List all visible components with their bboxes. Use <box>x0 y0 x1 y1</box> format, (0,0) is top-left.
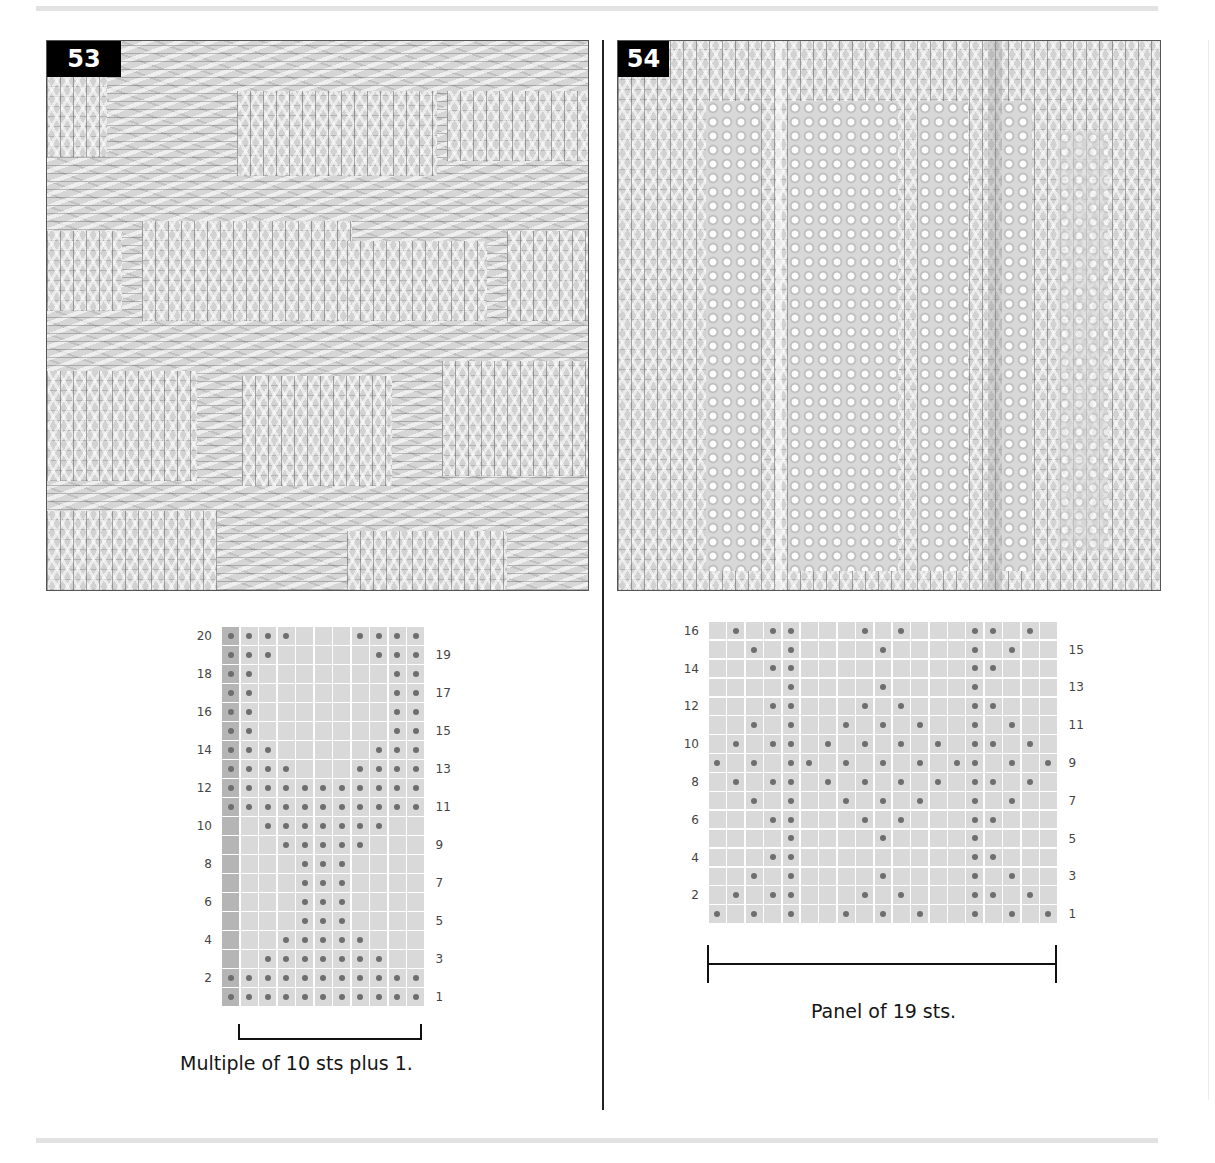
chart-cell-purl <box>370 760 387 778</box>
chart-cell-purl <box>333 969 350 987</box>
chart-cell-purl <box>875 754 892 771</box>
chart-cell-purl <box>985 811 1002 828</box>
row-number-label: 20 <box>188 630 212 642</box>
chart-cell-knit <box>1040 849 1057 866</box>
chart-cell-knit <box>333 722 350 740</box>
chart-cell-knit <box>930 679 947 696</box>
chart-cell-purl <box>966 849 983 866</box>
chart-cell-knit <box>930 886 947 903</box>
swatch-photo-54: 54 <box>617 40 1161 591</box>
seed-stitch-column <box>788 101 898 571</box>
chart-cell-purl <box>966 716 983 733</box>
chart-cell-purl <box>370 988 387 1006</box>
chart-cell-purl <box>407 798 424 816</box>
chart-cell-knit <box>241 874 258 892</box>
chart-cell-purl <box>333 779 350 797</box>
chart-cell-knit <box>856 792 873 809</box>
chart-cell-knit <box>709 698 726 715</box>
chart-caption-53: Multiple of 10 sts plus 1. <box>180 1052 413 1074</box>
chart-cell-purl <box>370 646 387 664</box>
chart-cell-knit <box>222 836 239 854</box>
chart-cell-purl <box>241 703 258 721</box>
chart-cell-knit <box>1040 773 1057 790</box>
chart-cell-knit <box>709 830 726 847</box>
chart-cell-knit <box>709 792 726 809</box>
chart-cell-purl <box>727 622 744 639</box>
chart-cell-knit <box>819 679 836 696</box>
chart-cell-purl <box>801 754 818 771</box>
chart-cell-knit <box>278 684 295 702</box>
chart-cell-purl <box>893 735 910 752</box>
chart-cell-purl <box>783 716 800 733</box>
chart-cell-purl <box>352 798 369 816</box>
chart-cell-knit <box>746 886 763 903</box>
stockinette-block <box>347 241 487 321</box>
chart-cell-purl <box>259 950 276 968</box>
chart-cell-knit <box>222 874 239 892</box>
chart-cell-purl <box>370 741 387 759</box>
chart-cell-knit <box>709 679 726 696</box>
chart-cell-purl <box>352 950 369 968</box>
chart-cell-knit <box>893 754 910 771</box>
chart-cell-knit <box>856 905 873 922</box>
chart-cell-purl <box>893 811 910 828</box>
bottom-rule <box>36 1138 1158 1143</box>
chart-cell-purl <box>1022 735 1039 752</box>
chart-cell-knit <box>838 660 855 677</box>
chart-cell-purl <box>1022 886 1039 903</box>
stockinette-block <box>442 361 588 476</box>
stockinette-block <box>447 91 588 161</box>
chart-cell-knit <box>838 679 855 696</box>
chart-cell-knit <box>333 665 350 683</box>
chart-cell-knit <box>1003 622 1020 639</box>
chart-cell-knit <box>911 886 928 903</box>
chart-cell-knit <box>1022 716 1039 733</box>
chart-cell-knit <box>333 760 350 778</box>
chart-cell-knit <box>709 735 726 752</box>
chart-cell-purl <box>1022 773 1039 790</box>
chart-cell-purl <box>407 988 424 1006</box>
chart-cell-knit <box>407 874 424 892</box>
chart-cell-knit <box>930 641 947 658</box>
chart-cell-knit <box>930 811 947 828</box>
chart-cell-knit <box>296 684 313 702</box>
chart-cell-knit <box>1040 660 1057 677</box>
chart-cell-purl <box>966 679 983 696</box>
row-number-label: 15 <box>436 725 460 737</box>
chart-cell-knit <box>911 679 928 696</box>
chart-cell-knit <box>1040 868 1057 885</box>
chart-cell-knit <box>1022 754 1039 771</box>
chart-cell-knit <box>315 741 332 759</box>
chart-cell-knit <box>259 836 276 854</box>
swatch-photo-53: 53 <box>46 40 589 591</box>
chart-cell-purl <box>241 684 258 702</box>
chart-cell-knit <box>875 773 892 790</box>
chart-cell-knit <box>930 868 947 885</box>
chart-cell-purl <box>407 665 424 683</box>
chart-cell-knit <box>315 684 332 702</box>
chart-cell-purl <box>370 817 387 835</box>
chart-cell-knit <box>315 646 332 664</box>
chart-cell-purl <box>278 779 295 797</box>
chart-cell-knit <box>801 622 818 639</box>
seed-stitch-column <box>918 101 968 571</box>
chart-cell-purl <box>389 779 406 797</box>
chart-cell-knit <box>296 760 313 778</box>
chart-cell-knit <box>222 817 239 835</box>
chart-cell-knit <box>727 849 744 866</box>
chart-cell-knit <box>259 855 276 873</box>
chart-cell-knit <box>389 817 406 835</box>
chart-cell-purl <box>370 779 387 797</box>
chart-cell-purl <box>783 773 800 790</box>
chart-cell-knit <box>296 741 313 759</box>
chart-cell-knit <box>241 950 258 968</box>
chart-cell-purl <box>370 798 387 816</box>
chart-cell-purl <box>315 798 332 816</box>
chart-cell-purl <box>315 988 332 1006</box>
chart-cell-knit <box>709 849 726 866</box>
chart-cell-knit <box>948 811 965 828</box>
chart-cell-purl <box>764 811 781 828</box>
chart-cell-purl <box>783 660 800 677</box>
chart-cell-purl <box>333 893 350 911</box>
chart-cell-knit <box>1040 830 1057 847</box>
